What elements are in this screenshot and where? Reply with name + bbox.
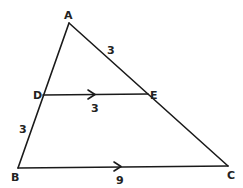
vertex-label-b: B: [11, 171, 19, 184]
vertex-label-d: D: [33, 89, 42, 102]
length-label-bc: 9: [116, 174, 124, 187]
vertex-label-c: C: [227, 169, 235, 182]
triangle-diagram: A D E B C 3 3 3 9: [0, 0, 243, 188]
vertex-label-a: A: [64, 9, 73, 22]
segment-bc: [18, 166, 228, 168]
length-label-bd: 3: [19, 123, 27, 136]
length-label-ae: 3: [107, 44, 115, 57]
vertex-label-e: E: [150, 89, 158, 102]
length-label-de: 3: [91, 102, 99, 115]
